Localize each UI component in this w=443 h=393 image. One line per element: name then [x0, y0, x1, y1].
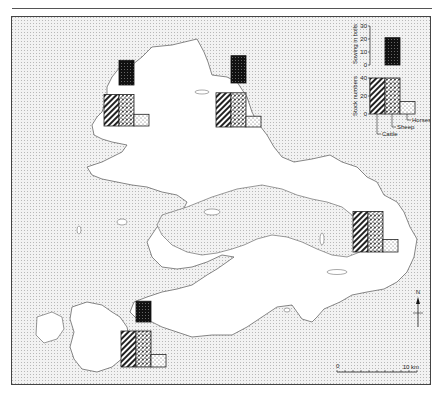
legend-label-cattle: Cattle — [382, 131, 398, 137]
stock-horses-bar — [151, 354, 166, 367]
sowing-bar — [136, 301, 151, 322]
sowing-bar — [119, 60, 134, 85]
legend-sowing-tick-label: 20 — [360, 36, 367, 42]
scale-end-label: 10 km — [403, 364, 419, 370]
sowing-bar — [231, 56, 246, 83]
legend-stock-tick-label: 40 — [360, 75, 367, 81]
legend-horses-bar — [400, 101, 415, 114]
stock-sheep-bar — [231, 93, 246, 127]
legend-label-sheep: Sheep — [397, 124, 415, 130]
legend-sheep-bar — [385, 78, 400, 114]
stock-cattle-bar — [104, 95, 119, 127]
legend-sowing-tick-label: 30 — [360, 23, 367, 29]
island-5 — [117, 219, 127, 225]
island-2 — [195, 90, 209, 94]
stock-sheep-bar — [119, 95, 134, 127]
island-7 — [320, 233, 324, 245]
map-frame: 3020100Sowing in bolls40200Stock numbers… — [11, 16, 431, 385]
map-canvas: 3020100Sowing in bolls40200Stock numbers… — [12, 17, 430, 384]
north-label: N — [416, 289, 420, 295]
legend-stock-label: Stock numbers — [352, 76, 358, 116]
stock-horses-bar — [246, 116, 261, 127]
island-6 — [77, 226, 81, 234]
stock-sheep-bar — [136, 331, 151, 367]
stock-sheep-bar — [368, 212, 383, 253]
page-header-rule — [12, 8, 432, 9]
legend-sowing-label: Sowing in bolls — [352, 24, 358, 64]
stock-cattle-bar — [121, 331, 136, 367]
legend-sowing-bar — [385, 38, 400, 65]
island-1 — [204, 209, 220, 215]
island-4 — [327, 270, 347, 275]
stock-horses-bar — [383, 239, 398, 252]
legend-label-horses: Horses — [412, 117, 430, 123]
legend-stock-tick-label: 20 — [360, 93, 367, 99]
legend-sowing-tick-label: 10 — [360, 49, 367, 55]
stock-cattle-bar — [216, 93, 231, 127]
legend-cattle-bar — [370, 78, 385, 114]
stock-horses-bar — [134, 114, 149, 126]
stock-cattle-bar — [353, 212, 368, 253]
island-3 — [284, 308, 290, 312]
